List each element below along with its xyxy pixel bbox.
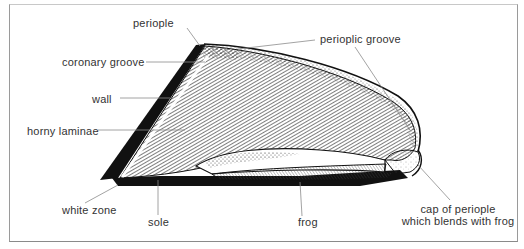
label-periople-groove: perioplic groove [320, 33, 401, 45]
leader-cap [418, 165, 450, 200]
leader-white-zone [85, 185, 118, 203]
label-cap-of-periople: cap of periople which blends with frog [398, 203, 518, 227]
label-coronary-groove: coronary groove [62, 56, 145, 68]
leader-periople [187, 28, 200, 46]
label-sole: sole [148, 216, 169, 228]
label-frog: frog [298, 216, 318, 228]
label-wall: wall [92, 93, 112, 105]
leader-frog [300, 182, 302, 216]
label-horny-laminae: horny laminae [27, 125, 99, 137]
label-cap-line2: which blends with frog [398, 215, 518, 227]
label-periople: periople [133, 17, 174, 29]
label-white-zone: white zone [62, 204, 117, 216]
label-cap-line1: cap of periople [398, 203, 518, 215]
leader-periople-groove [238, 40, 315, 49]
